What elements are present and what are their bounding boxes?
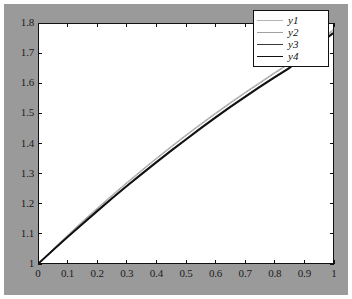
y-tick-mark [38, 143, 42, 144]
x-tick-label: 0.4 [143, 268, 169, 279]
x-tick-mark [126, 260, 127, 264]
y-tick-mark [38, 173, 42, 174]
x-tick-mark [186, 260, 187, 264]
legend-item-y3[interactable]: y3 [257, 39, 326, 50]
x-tick-mark [304, 260, 305, 264]
x-tick-mark [38, 260, 39, 264]
legend-line-swatch-y1 [257, 20, 283, 21]
x-tick-mark [274, 260, 275, 264]
y-tick-mark [330, 143, 334, 144]
y-tick-mark [330, 173, 334, 174]
y-tick-label: 1.7 [4, 47, 34, 58]
y-tick-mark [38, 83, 42, 84]
legend-line-swatch-y4 [257, 56, 283, 57]
x-tick-mark [97, 23, 98, 27]
x-tick-mark [97, 260, 98, 264]
y-tick-label: 1.1 [4, 228, 34, 239]
y-tick-label: 1.6 [4, 77, 34, 88]
x-tick-label: 1 [321, 268, 347, 279]
y-tick-mark [330, 203, 334, 204]
x-tick-mark [156, 23, 157, 27]
y-tick-mark [330, 113, 334, 114]
x-tick-mark [245, 23, 246, 27]
x-tick-mark [156, 260, 157, 264]
x-tick-label: 0.2 [84, 268, 110, 279]
legend-item-y4[interactable]: y4 [257, 51, 326, 62]
y-tick-mark [38, 233, 42, 234]
legend-label-y2: y2 [288, 27, 298, 38]
figure-canvas: 11.11.21.31.41.51.61.71.8 00.10.20.30.40… [4, 4, 348, 295]
y-tick-label: 1.3 [4, 168, 34, 179]
legend-line-swatch-y2 [257, 32, 283, 33]
x-tick-mark [67, 23, 68, 27]
series-line-y4 [39, 33, 333, 263]
x-tick-label: 0.5 [173, 268, 199, 279]
x-tick-mark [38, 23, 39, 27]
y-tick-mark [38, 264, 42, 265]
x-tick-label: 0.8 [262, 268, 288, 279]
y-tick-label: 1.2 [4, 198, 34, 209]
legend-label-y3: y3 [288, 39, 298, 50]
x-tick-mark [215, 23, 216, 27]
x-tick-label: 0.9 [291, 268, 317, 279]
x-tick-mark [215, 260, 216, 264]
chart-legend[interactable]: y1y2y3y4 [253, 10, 329, 67]
x-tick-label: 0 [25, 268, 51, 279]
y-tick-label: 1.8 [4, 17, 34, 28]
legend-item-y2[interactable]: y2 [257, 27, 326, 38]
y-tick-mark [330, 233, 334, 234]
y-tick-mark [38, 203, 42, 204]
y-tick-mark [330, 53, 334, 54]
y-tick-mark [38, 53, 42, 54]
y-tick-mark [38, 113, 42, 114]
x-tick-mark [334, 23, 335, 27]
x-tick-label: 0.3 [114, 268, 140, 279]
y-tick-mark [38, 23, 42, 24]
y-tick-label: 1.5 [4, 107, 34, 118]
y-tick-label: 1.4 [4, 138, 34, 149]
legend-label-y1: y1 [288, 15, 298, 26]
legend-line-swatch-y3 [257, 44, 283, 45]
x-tick-mark [245, 260, 246, 264]
x-tick-mark [67, 260, 68, 264]
x-tick-label: 0.7 [232, 268, 258, 279]
legend-label-y4: y4 [288, 51, 298, 62]
x-tick-mark [186, 23, 187, 27]
x-tick-label: 0.6 [203, 268, 229, 279]
x-tick-mark [334, 260, 335, 264]
y-tick-mark [330, 83, 334, 84]
x-tick-label: 0.1 [55, 268, 81, 279]
x-tick-mark [126, 23, 127, 27]
legend-item-y1[interactable]: y1 [257, 15, 326, 26]
